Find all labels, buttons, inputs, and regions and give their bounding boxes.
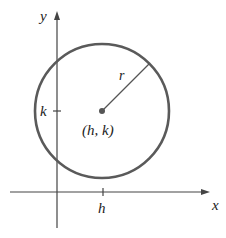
x-axis-label: x <box>211 197 219 213</box>
center-label: (h, k) <box>82 122 114 139</box>
h-tick-label: h <box>98 200 106 216</box>
center-point <box>99 108 105 114</box>
k-tick-label: k <box>40 103 47 119</box>
x-axis-arrow-icon <box>201 189 210 195</box>
y-axis-arrow-icon <box>54 11 60 20</box>
y-axis <box>54 11 60 228</box>
x-axis <box>10 189 210 195</box>
y-axis-label: y <box>38 8 47 24</box>
radius-line <box>102 64 149 111</box>
circle-diagram: x y h k (h, k) r <box>0 0 226 238</box>
radius-label: r <box>119 68 125 83</box>
